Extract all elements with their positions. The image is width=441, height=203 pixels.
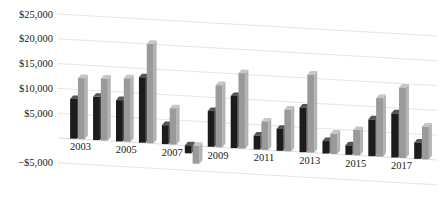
x-axis-tick-label: 2009 bbox=[208, 150, 229, 161]
bar-front-face bbox=[124, 78, 131, 141]
bar-2004-series2 bbox=[101, 75, 111, 141]
bar-2003-series2 bbox=[78, 75, 88, 140]
bar-front-face bbox=[116, 100, 123, 141]
bar-front-face bbox=[78, 78, 85, 139]
y-axis-tick-label: $25,000 bbox=[19, 9, 53, 20]
x-axis-tick-label: 2003 bbox=[70, 141, 91, 152]
bar-front-face bbox=[376, 98, 383, 157]
y-axis-tick-label: −$5,000 bbox=[18, 157, 53, 168]
x-axis-tick-label: 2005 bbox=[116, 144, 137, 155]
bar-side-face bbox=[383, 95, 386, 157]
bar-side-face bbox=[360, 126, 363, 155]
bar-2008-series2 bbox=[193, 142, 203, 163]
bar-side-face bbox=[429, 123, 432, 159]
bar-front-face bbox=[414, 142, 421, 158]
bar-2018-series2 bbox=[422, 123, 432, 159]
bar-front-face bbox=[93, 97, 100, 140]
bar-2009-series2 bbox=[216, 82, 226, 148]
bar-2014-series2 bbox=[330, 130, 340, 154]
bar-front-face bbox=[185, 145, 192, 153]
bar-front-face bbox=[139, 77, 146, 142]
bar-front-face bbox=[238, 73, 245, 148]
bar-side-face bbox=[131, 75, 134, 142]
bar-2007-series2 bbox=[170, 105, 180, 145]
bar-front-face bbox=[70, 99, 77, 139]
x-axis-tick-label: 2007 bbox=[162, 147, 183, 158]
bar-front-face bbox=[193, 146, 200, 164]
y-axis-tick-label: $15,000 bbox=[19, 58, 53, 69]
y-axis-tick-label: $5,000 bbox=[24, 108, 53, 119]
x-axis-tick-label: 2013 bbox=[299, 155, 320, 166]
bar-front-face bbox=[330, 134, 337, 154]
bar-front-face bbox=[300, 107, 307, 152]
bar-2016-series2 bbox=[376, 95, 386, 157]
x-axis-tick-label: 2015 bbox=[345, 158, 366, 169]
bar-front-face bbox=[261, 122, 268, 150]
y-axis-tick-label: $10,000 bbox=[19, 83, 53, 94]
bar-front-face bbox=[307, 75, 314, 153]
y-axis-tick-label: $20,000 bbox=[19, 33, 53, 44]
bar-side-face bbox=[222, 82, 225, 148]
bar-front-face bbox=[216, 85, 223, 147]
x-axis-tick-label: 2011 bbox=[254, 152, 275, 163]
bar-side-face bbox=[108, 75, 111, 141]
bar-front-face bbox=[101, 78, 108, 140]
bar-2011-series2 bbox=[261, 118, 271, 150]
bar-2006-series2 bbox=[147, 40, 157, 143]
bar-front-face bbox=[399, 88, 406, 158]
bar-front-face bbox=[147, 44, 154, 143]
bar-2015-series2 bbox=[353, 126, 363, 155]
bar-2005-series2 bbox=[124, 75, 134, 142]
bar-2012-series2 bbox=[284, 106, 294, 151]
chart-canvas: $25,000$20,000$15,000$10,000$5,000−$5,00… bbox=[0, 0, 441, 203]
bar-front-face bbox=[208, 111, 215, 147]
bar-side-face bbox=[154, 40, 157, 143]
bar-side-face bbox=[177, 105, 180, 145]
bar-2017-series2 bbox=[399, 84, 409, 158]
bar-2010-series2 bbox=[238, 70, 248, 149]
bar-front-face bbox=[368, 119, 375, 156]
bar-2013-series2 bbox=[307, 71, 317, 152]
bar-front-face bbox=[353, 130, 360, 155]
bar-front-face bbox=[162, 125, 169, 144]
bar-side-face bbox=[291, 106, 294, 151]
bar-chart: $25,000$20,000$15,000$10,000$5,000−$5,00… bbox=[0, 0, 441, 203]
bar-side-face bbox=[199, 142, 202, 163]
bar-side-face bbox=[314, 71, 317, 152]
bar-side-face bbox=[406, 84, 409, 158]
x-axis-tick-label: 2017 bbox=[391, 160, 412, 171]
bar-front-face bbox=[254, 136, 261, 150]
bar-front-face bbox=[277, 129, 284, 151]
bar-front-face bbox=[322, 141, 329, 153]
bar-side-face bbox=[268, 118, 271, 150]
bar-front-face bbox=[231, 96, 238, 148]
bar-front-face bbox=[170, 108, 177, 144]
bar-front-face bbox=[284, 110, 291, 152]
bar-side-face bbox=[245, 70, 248, 149]
bar-front-face bbox=[391, 113, 398, 157]
bar-front-face bbox=[422, 127, 429, 160]
bar-side-face bbox=[337, 130, 340, 154]
bar-side-face bbox=[85, 75, 88, 140]
bar-front-face bbox=[345, 145, 352, 154]
